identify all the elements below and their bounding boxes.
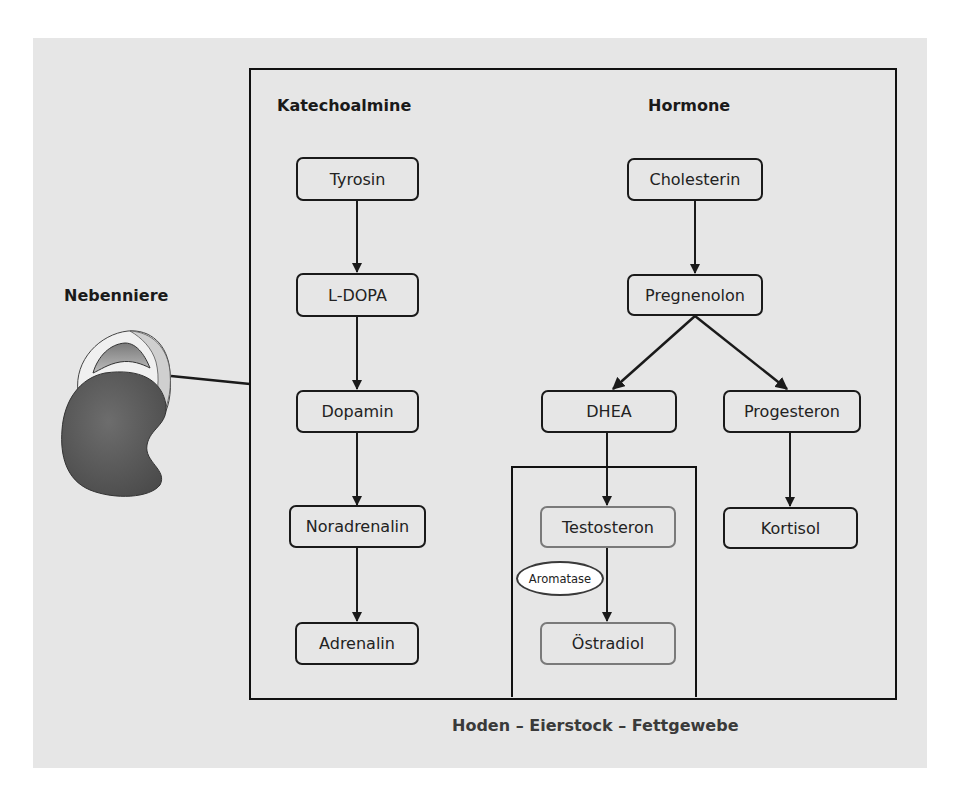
peripheral-tissue-label: Hoden – Eierstock – Fettgewebe: [452, 716, 738, 735]
node-tyrosin: Tyrosin: [296, 157, 419, 201]
node-dhea: DHEA: [541, 390, 677, 433]
node-adrenalin: Adrenalin: [295, 622, 419, 665]
catecholamine-heading: Katechoalmine: [277, 96, 411, 115]
enzyme-aromatase: Aromatase: [516, 561, 604, 596]
node-noradrenalin: Noradrenalin: [289, 505, 426, 548]
node-kortisol: Kortisol: [723, 507, 858, 549]
hormone-heading: Hormone: [648, 96, 730, 115]
node-pregnenolon: Pregnenolon: [627, 274, 763, 316]
organ-label: Nebenniere: [64, 286, 168, 305]
node-testosteron: Testosteron: [540, 506, 676, 548]
node-dopamin: Dopamin: [296, 390, 419, 433]
node-cholesterin: Cholesterin: [627, 158, 763, 201]
node-l-dopa: L-DOPA: [296, 273, 419, 317]
node-progesteron: Progesteron: [723, 390, 861, 433]
node-oestradiol: Östradiol: [540, 622, 676, 665]
